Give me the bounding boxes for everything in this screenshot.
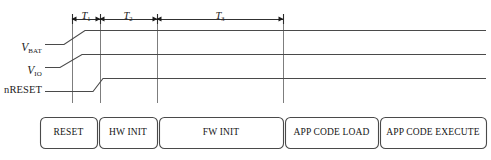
- signal-label-nreset: nRESET: [4, 85, 42, 96]
- phase-label-hw-init: HW INIT: [99, 128, 157, 138]
- signal-label-vbat-subscript: BAT: [28, 47, 42, 55]
- phase-label-fw-init: FW INIT: [159, 128, 283, 138]
- interval-label-t1-subscript: 1: [87, 15, 90, 22]
- phase-label-app-code-load: APP CODE LOAD: [285, 128, 378, 138]
- interval-label-t2: T2: [124, 6, 133, 23]
- signal-label-vio: VIO: [27, 61, 42, 78]
- interval-label-t1: T1: [82, 6, 91, 23]
- waveforms-group: [45, 31, 486, 92]
- phase-label-reset: RESET: [40, 128, 97, 138]
- waveform-nreset: [45, 79, 486, 92]
- interval-label-t2-subscript: 2: [129, 15, 132, 22]
- gridlines-group: [73, 14, 284, 103]
- interval-arrows-group: [72, 14, 284, 24]
- interval-label-t3-subscript: 3: [221, 15, 224, 22]
- interval-arrow-right-t3: [279, 16, 284, 21]
- waveform-vio: [45, 55, 486, 68]
- waveform-vbat: [45, 31, 486, 45]
- interval-label-t3: T3: [216, 6, 225, 23]
- phase-label-app-code-execute: APP CODE EXECUTE: [380, 128, 486, 138]
- signal-label-vbat: VBAT: [21, 38, 42, 55]
- timing-diagram-figure: VBAT VIO nRESET T1 T2 T3 RESETHW INITFW …: [0, 0, 491, 160]
- signal-label-vio-subscript: IO: [34, 70, 42, 78]
